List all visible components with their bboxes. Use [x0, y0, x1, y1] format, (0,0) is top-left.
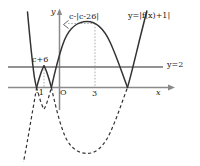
curve-main-arch [51, 22, 127, 88]
origin-label: O [60, 89, 67, 97]
x-tick-label-3: 3 [92, 90, 97, 98]
curve-bump-left [37, 66, 44, 88]
curve-left-branch [28, 12, 37, 87]
x-axis-label: x [156, 89, 161, 97]
graph-canvas [0, 0, 200, 166]
peak-pointer-arrow [64, 21, 69, 29]
curve-bump-right [44, 66, 51, 88]
curve-right-branch [128, 11, 147, 87]
bump-value-label: c+6 [32, 56, 48, 64]
curve-abs-f-plus-1 [28, 11, 147, 87]
y-axis-arrow [57, 9, 62, 16]
curve-dashed-reflection [24, 88, 128, 162]
x-tick-label-minus-1: -1 [36, 89, 44, 97]
peak-value-label: c-|c-26| [69, 13, 99, 21]
dashed-left-branch [24, 88, 37, 162]
curve-equation-label: y=|f(x)+1| [128, 12, 170, 20]
peak-label-pointer [64, 21, 69, 29]
math-figure: y c-|c-26| y=|f(x)+1| y=2 c+6 -1 O 3 x [0, 0, 200, 166]
guide-lines-group [44, 24, 95, 88]
y2-line-label: y=2 [167, 61, 183, 69]
y-axis-label: y [51, 8, 56, 16]
x-axis-arrow [168, 85, 175, 91]
dashed-main-trough [51, 88, 127, 154]
